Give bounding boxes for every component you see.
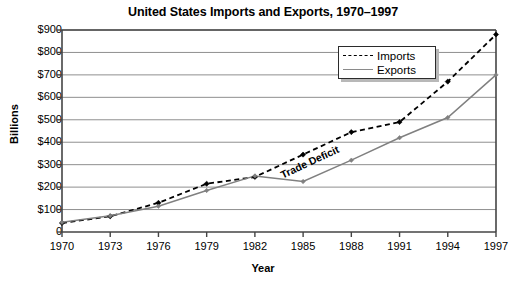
data-point <box>204 188 208 192</box>
data-point <box>301 179 305 183</box>
legend-label-exports: Exports <box>377 64 416 76</box>
legend-item-exports: Exports <box>343 62 435 77</box>
chart-legend: Imports Exports <box>338 46 436 79</box>
data-point <box>349 130 354 135</box>
dashed-line-icon <box>343 51 373 61</box>
chart-container: United States Imports and Exports, 1970–… <box>0 0 526 283</box>
data-point <box>156 204 160 208</box>
legend-item-imports: Imports <box>343 48 435 63</box>
solid-line-icon <box>343 65 373 75</box>
data-point <box>204 181 209 186</box>
legend-label-imports: Imports <box>377 50 415 62</box>
plot-area <box>0 0 526 283</box>
data-point <box>493 32 498 37</box>
